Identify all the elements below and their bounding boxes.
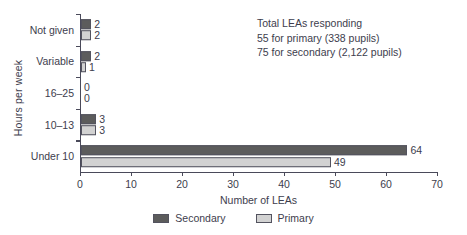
bar-wrap-primary: 0 <box>81 94 438 104</box>
x-axis-line <box>80 172 437 173</box>
x-tick-label-50: 50 <box>329 178 341 190</box>
y-tick-label-not-given: Not given <box>30 24 74 36</box>
legend-label-primary: Primary <box>278 212 314 224</box>
x-tick <box>80 172 81 176</box>
x-tick-label-30: 30 <box>227 178 239 190</box>
chart-legend: Secondary Primary <box>0 212 467 224</box>
chart-annotation: Total LEAs responding 55 for primary (33… <box>257 16 402 60</box>
bar-value-secondary: 0 <box>84 81 90 93</box>
legend-swatch-secondary-icon <box>153 214 169 223</box>
x-tick <box>437 172 438 176</box>
y-tick <box>76 109 80 110</box>
bar-group: 3 3 <box>81 113 438 137</box>
y-tick-label-variable: Variable <box>36 55 74 67</box>
bar-wrap-secondary: 0 <box>81 82 438 92</box>
x-tick-label-10: 10 <box>125 178 137 190</box>
bar-wrap-secondary: 3 <box>81 114 438 124</box>
annotation-line-2: 55 for primary (338 pupils) <box>257 31 402 46</box>
bar-wrap-primary: 49 <box>81 157 438 167</box>
y-axis-title: Hours per week <box>12 38 24 158</box>
bar-value-secondary: 64 <box>410 145 422 157</box>
annotation-line-3: 75 for secondary (2,122 pupils) <box>257 45 402 60</box>
x-tick-label-70: 70 <box>431 178 443 190</box>
bar-chart: Hours per week Not given 2 2 Variable <box>0 0 467 235</box>
x-tick-label-20: 20 <box>176 178 188 190</box>
legend-item-secondary: Secondary <box>153 212 225 224</box>
x-tick <box>131 172 132 176</box>
bar-primary <box>81 157 331 167</box>
bar-value-secondary: 3 <box>99 113 105 125</box>
bar-value-primary: 49 <box>334 156 346 168</box>
y-tick-label-10-13: 10–13 <box>45 119 74 131</box>
x-tick-label-60: 60 <box>380 178 392 190</box>
y-tick <box>76 46 80 47</box>
x-tick-label-40: 40 <box>278 178 290 190</box>
bar-row-10-13: 10–13 3 3 <box>80 109 437 141</box>
x-tick <box>335 172 336 176</box>
legend-label-secondary: Secondary <box>175 212 225 224</box>
bar-row-16-25: 16–25 0 0 <box>80 77 437 109</box>
annotation-line-1: Total LEAs responding <box>257 16 402 31</box>
y-tick <box>76 140 80 141</box>
bar-primary <box>81 62 86 72</box>
x-tick <box>182 172 183 176</box>
bar-value-primary: 1 <box>89 61 95 73</box>
bar-secondary <box>81 146 407 156</box>
bar-primary <box>81 125 96 135</box>
bar-wrap-secondary: 64 <box>81 146 438 156</box>
bar-wrap-primary: 3 <box>81 125 438 135</box>
bar-value-primary: 3 <box>99 124 105 136</box>
legend-swatch-primary-icon <box>256 214 272 223</box>
bar-row-under-10: Under 10 64 49 <box>80 140 437 172</box>
legend-item-primary: Primary <box>256 212 314 224</box>
bar-secondary <box>81 51 91 61</box>
bar-secondary <box>81 19 91 29</box>
bar-value-primary: 0 <box>84 93 90 105</box>
y-tick <box>76 77 80 78</box>
y-tick-label-16-25: 16–25 <box>45 87 74 99</box>
x-tick <box>386 172 387 176</box>
bar-value-secondary: 2 <box>94 50 100 62</box>
x-tick <box>284 172 285 176</box>
bar-wrap-primary: 1 <box>81 62 438 72</box>
bar-value-primary: 2 <box>94 29 100 41</box>
x-tick-label-0: 0 <box>77 178 83 190</box>
bar-group: 64 49 <box>81 144 438 168</box>
bar-group: 0 0 <box>81 81 438 105</box>
bar-value-secondary: 2 <box>94 18 100 30</box>
y-tick-label-under-10: Under 10 <box>31 150 74 162</box>
x-axis-title: Number of LEAs <box>80 194 437 206</box>
x-tick <box>233 172 234 176</box>
bar-secondary <box>81 114 96 124</box>
y-tick <box>76 14 80 15</box>
bar-primary <box>81 30 91 40</box>
